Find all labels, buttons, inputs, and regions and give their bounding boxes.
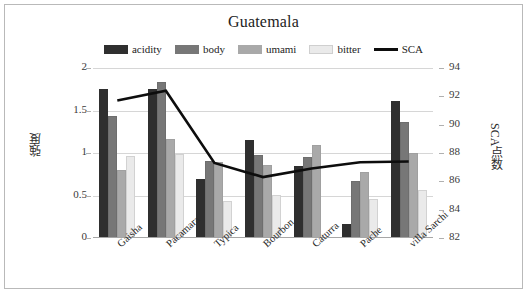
bar-umami[interactable] (117, 170, 126, 238)
legend-label: body (203, 43, 225, 55)
bar-group (93, 68, 142, 238)
bar-umami[interactable] (263, 165, 272, 238)
y-axis-right-tick-label: 94 (449, 60, 479, 72)
y-axis-left-tickmark (86, 238, 91, 239)
legend-swatch-icon-acidity (104, 45, 128, 54)
bar-umami[interactable] (409, 153, 418, 238)
y-axis-left-tick-label: 0 (57, 230, 87, 242)
legend-item-umami[interactable]: umami (238, 43, 297, 55)
x-axis-label: Gaisha (115, 241, 122, 249)
x-axis-labels: GaishaPacamaraTypicaBourbonCaturraPachev… (93, 239, 433, 295)
y-axis-right-tickmark (439, 96, 444, 97)
y-axis-left-tickmark (86, 68, 91, 69)
chart-frame: Guatemala aciditybodyumamibitterSCA 00.5… (4, 4, 523, 289)
legend-item-bitter[interactable]: bitter (309, 43, 360, 55)
y-axis-left-tickmark (86, 153, 91, 154)
y-axis-right-tickmark (439, 153, 444, 154)
legend-item-SCA[interactable]: SCA (374, 43, 423, 55)
x-axis-label: Typica (212, 241, 219, 249)
x-axis-label: Pache (358, 241, 365, 249)
y-axis-left-tickmark (86, 111, 91, 112)
bar-group (142, 68, 191, 238)
legend-label: umami (266, 43, 297, 55)
bar-body[interactable] (108, 116, 117, 238)
x-axis-label: Caturra (310, 241, 317, 249)
bar-acidity[interactable] (148, 89, 157, 238)
y-axis-left-tick-label: 0.5 (57, 188, 87, 200)
x-axis-label: Pacamara (164, 241, 171, 249)
bar-body[interactable] (351, 181, 360, 238)
bar-umami[interactable] (214, 162, 223, 238)
bar-group (384, 68, 433, 238)
legend-label: acidity (132, 43, 162, 55)
legend-item-body[interactable]: body (175, 43, 225, 55)
bar-body[interactable] (303, 157, 312, 238)
bar-group (190, 68, 239, 238)
bar-group (239, 68, 288, 238)
y-axis-right-tick-label: 90 (449, 117, 479, 129)
bar-umami[interactable] (312, 145, 321, 239)
y-axis-left-ticks: 00.511.52 (53, 68, 87, 238)
y-axis-left-tick-label: 2 (57, 60, 87, 72)
y-axis-left-tickmark (86, 196, 91, 197)
bar-body[interactable] (205, 161, 214, 238)
y-axis-right-tick-label: 86 (449, 173, 479, 185)
legend-swatch-icon-umami (238, 45, 262, 54)
bar-acidity[interactable] (245, 140, 254, 238)
y-axis-right-tickmark (439, 181, 444, 182)
bar-acidity[interactable] (391, 101, 400, 238)
y-axis-right-tick-label: 84 (449, 202, 479, 214)
y-axis-right-title: SCA点数 (487, 123, 504, 170)
plot-area (93, 68, 433, 238)
legend-item-acidity[interactable]: acidity (104, 43, 162, 55)
chart-legend: aciditybodyumamibitterSCA (5, 43, 522, 55)
legend-swatch-icon-bitter (309, 45, 333, 54)
legend-label: SCA (402, 43, 423, 55)
legend-label: bitter (337, 43, 360, 55)
bar-acidity[interactable] (196, 179, 205, 239)
bar-acidity[interactable] (342, 224, 351, 238)
y-axis-right-tickmark (439, 238, 444, 239)
chart-title: Guatemala (5, 13, 522, 31)
bar-group (336, 68, 385, 238)
bar-body[interactable] (254, 155, 263, 238)
bar-groups (93, 68, 433, 238)
y-axis-right-tickmark (439, 68, 444, 69)
y-axis-left-tick-label: 1 (57, 145, 87, 157)
y-axis-right-tick-label: 92 (449, 88, 479, 100)
x-axis-label: villa Sarchi (407, 241, 414, 249)
y-axis-left-title: 強度 (27, 133, 44, 157)
bar-group (287, 68, 336, 238)
bar-umami[interactable] (360, 172, 369, 238)
bar-body[interactable] (400, 122, 409, 238)
y-axis-right-tick-label: 88 (449, 145, 479, 157)
bar-acidity[interactable] (99, 89, 108, 238)
bar-umami[interactable] (166, 139, 175, 238)
legend-swatch-icon-body (175, 45, 199, 54)
y-axis-left-tick-label: 1.5 (57, 103, 87, 115)
y-axis-right-tick-label: 82 (449, 230, 479, 242)
y-axis-right-tickmark (439, 125, 444, 126)
x-axis-label: Bourbon (261, 241, 268, 249)
bar-acidity[interactable] (294, 166, 303, 238)
legend-line-icon-SCA (374, 48, 398, 51)
bar-body[interactable] (157, 82, 166, 238)
